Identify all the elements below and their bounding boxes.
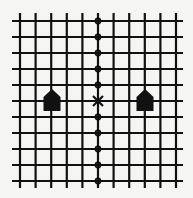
grid-diagram: [0, 0, 193, 198]
